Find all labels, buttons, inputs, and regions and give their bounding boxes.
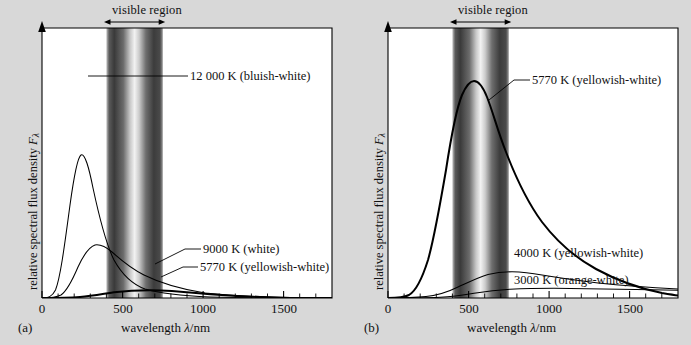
- x-tick-label-b-2: 1000: [529, 301, 569, 317]
- blackbody-spectra-figure: visible region relative spectral flux de…: [0, 0, 691, 345]
- y-axis-symbol-a: F: [26, 137, 40, 145]
- curve-label-12000k: 12 000 K (bluish-white): [190, 69, 310, 84]
- visible-region-label-b: visible region: [458, 3, 528, 18]
- x-tick-label-a-2: 1000: [183, 301, 223, 317]
- curve-label-3000k: 3000 K (orange-white): [514, 273, 629, 288]
- panel-label-b: (b): [364, 320, 379, 336]
- visible-region-band-a: [106, 28, 162, 298]
- y-axis-title-text-a: relative spectral flux density: [26, 145, 40, 290]
- y-axis-symbol-b: F: [372, 137, 386, 145]
- visible-region-arrow-a: [104, 19, 165, 25]
- y-axis-arrowhead-a: [38, 21, 46, 32]
- panel-label-a: (a): [18, 320, 32, 336]
- x-tick-label-a-1: 500: [105, 301, 141, 317]
- curve-label-4000k: 4000 K (yellowish-white): [514, 246, 643, 261]
- y-axis-title-text-b: relative spectral flux density: [372, 145, 386, 290]
- x-axis-title-a: wavelength λ/nm: [121, 320, 210, 336]
- panel-a: visible region relative spectral flux de…: [0, 0, 345, 345]
- x-axis-unit-a: /nm: [190, 320, 210, 335]
- x-tick-label-a-3: 1500: [264, 301, 304, 317]
- x-tick-label-b-1: 500: [451, 301, 487, 317]
- x-axis-title-b: wavelength λ/nm: [467, 320, 556, 336]
- x-tick-label-b-0: 0: [378, 301, 398, 317]
- curve-label-5770k-a: 5770 K (yellowish-white): [200, 260, 329, 275]
- y-axis-arrowhead-b: [384, 21, 392, 32]
- panel-a-plot: [0, 0, 345, 345]
- x-tick-label-b-3: 1500: [610, 301, 650, 317]
- visible-region-arrow-b: [450, 19, 511, 25]
- panel-b-plot: [346, 0, 691, 345]
- visible-region-label-a: visible region: [112, 3, 182, 18]
- panel-b: visible region relative spectral flux de…: [346, 0, 691, 345]
- x-axis-title-text-b: wavelength: [467, 320, 530, 335]
- x-axis-unit-b: /nm: [536, 320, 556, 335]
- y-axis-subscript-a: λ: [31, 133, 41, 137]
- y-axis-title-a: relative spectral flux density Fλ: [26, 133, 41, 290]
- y-axis-subscript-b: λ: [377, 133, 387, 137]
- curve-label-9000k: 9000 K (white): [203, 242, 279, 257]
- y-axis-title-b: relative spectral flux density Fλ: [372, 133, 387, 290]
- curve-label-5770k-b: 5770 K (yellowish-white): [532, 73, 661, 88]
- visible-region-band-b: [452, 28, 508, 298]
- x-axis-title-text-a: wavelength: [121, 320, 184, 335]
- x-tick-label-a-0: 0: [32, 301, 52, 317]
